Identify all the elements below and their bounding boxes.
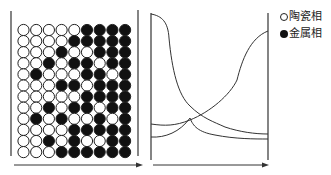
metal-phase-particle [94, 80, 105, 91]
ceramic-phase-particle [94, 102, 105, 113]
metal-phase-particle [69, 36, 80, 47]
metal-phase-particle [56, 147, 67, 158]
ceramic-phase-particle [56, 102, 67, 113]
ceramic-phase-particle [18, 113, 29, 124]
ceramic-phase-particle [81, 47, 92, 58]
metal-phase-particle [107, 147, 118, 158]
open-circle-icon [280, 13, 288, 21]
metal-phase-particle [120, 36, 131, 47]
ceramic-phase-particle [107, 113, 118, 124]
ceramic-phase-particle [107, 69, 118, 80]
ceramic-phase-particle [18, 58, 29, 69]
metal-phase-particle [107, 24, 118, 35]
metal-phase-particle [69, 135, 80, 146]
ceramic-phase-particle [81, 135, 92, 146]
lower-curve [151, 118, 268, 139]
metal-phase-particle [120, 69, 131, 80]
increasing-curve [151, 31, 268, 125]
ceramic-phase-particle [31, 91, 42, 102]
ceramic-phase-particle [31, 147, 42, 158]
legend-label: 金属相 [289, 25, 322, 42]
ceramic-phase-particle [43, 36, 54, 47]
ceramic-phase-particle [56, 69, 67, 80]
metal-phase-particle [120, 47, 131, 58]
left-arrowhead-icon [136, 163, 143, 168]
metal-phase-particle [120, 102, 131, 113]
filled-circle-icon [280, 30, 288, 38]
metal-phase-particle [69, 124, 80, 135]
ceramic-phase-particle [69, 113, 80, 124]
ceramic-phase-particle [18, 36, 29, 47]
ceramic-phase-particle [43, 24, 54, 35]
metal-phase-particle [81, 24, 92, 35]
metal-phase-particle [31, 69, 42, 80]
ceramic-phase-particle [56, 124, 67, 135]
metal-phase-particle [120, 113, 131, 124]
metal-phase-particle [94, 124, 105, 135]
ceramic-phase-particle [69, 91, 80, 102]
metal-phase-particle [120, 24, 131, 35]
ceramic-phase-particle [56, 135, 67, 146]
legend-item-metal: 金属相 [280, 25, 322, 42]
ceramic-phase-particle [43, 91, 54, 102]
ceramic-phase-particle [56, 24, 67, 35]
metal-phase-particle [120, 147, 131, 158]
ceramic-phase-particle [31, 24, 42, 35]
ceramic-phase-particle [94, 135, 105, 146]
ceramic-phase-particle [31, 102, 42, 113]
metal-phase-particle [107, 135, 118, 146]
ceramic-phase-particle [31, 135, 42, 146]
ceramic-phase-particle [69, 24, 80, 35]
metal-phase-particle [81, 102, 92, 113]
ceramic-phase-particle [81, 80, 92, 91]
ceramic-phase-particle [31, 47, 42, 58]
metal-phase-particle [94, 24, 105, 35]
ceramic-phase-particle [18, 47, 29, 58]
metal-phase-particle [94, 113, 105, 124]
metal-phase-particle [107, 102, 118, 113]
metal-phase-particle [81, 58, 92, 69]
ceramic-phase-particle [31, 124, 42, 135]
metal-phase-particle [107, 91, 118, 102]
metal-phase-particle [120, 124, 131, 135]
ceramic-phase-particle [31, 80, 42, 91]
metal-phase-particle [81, 147, 92, 158]
ceramic-phase-particle [43, 80, 54, 91]
metal-phase-particle [107, 124, 118, 135]
metal-phase-particle [81, 91, 92, 102]
ceramic-phase-particle [43, 47, 54, 58]
metal-phase-particle [120, 80, 131, 91]
ceramic-phase-particle [18, 69, 29, 80]
ceramic-phase-particle [69, 47, 80, 58]
metal-phase-particle [56, 47, 67, 58]
ceramic-phase-particle [56, 36, 67, 47]
ceramic-phase-particle [94, 58, 105, 69]
metal-phase-particle [94, 69, 105, 80]
metal-phase-particle [107, 58, 118, 69]
metal-phase-particle [120, 58, 131, 69]
ceramic-phase-particle [69, 69, 80, 80]
metal-phase-particle [56, 113, 67, 124]
ceramic-phase-particle [18, 147, 29, 158]
decreasing-curve [151, 14, 268, 134]
metal-phase-particle [69, 58, 80, 69]
ceramic-phase-particle [56, 58, 67, 69]
ceramic-phase-particle [43, 124, 54, 135]
ceramic-phase-particle [43, 69, 54, 80]
metal-phase-particle [81, 124, 92, 135]
legend: 陶瓷相 金属相 [280, 8, 322, 42]
ceramic-phase-particle [31, 36, 42, 47]
metal-phase-particle [107, 36, 118, 47]
ceramic-phase-particle [31, 58, 42, 69]
ceramic-phase-particle [56, 91, 67, 102]
metal-phase-particle [120, 91, 131, 102]
metal-phase-particle [120, 135, 131, 146]
metal-phase-particle [31, 113, 42, 124]
legend-item-ceramic: 陶瓷相 [280, 8, 322, 25]
metal-phase-particle [43, 58, 54, 69]
metal-phase-particle [43, 135, 54, 146]
metal-phase-particle [94, 36, 105, 47]
ceramic-phase-particle [81, 113, 92, 124]
metal-phase-particle [94, 47, 105, 58]
ceramic-phase-particle [43, 113, 54, 124]
